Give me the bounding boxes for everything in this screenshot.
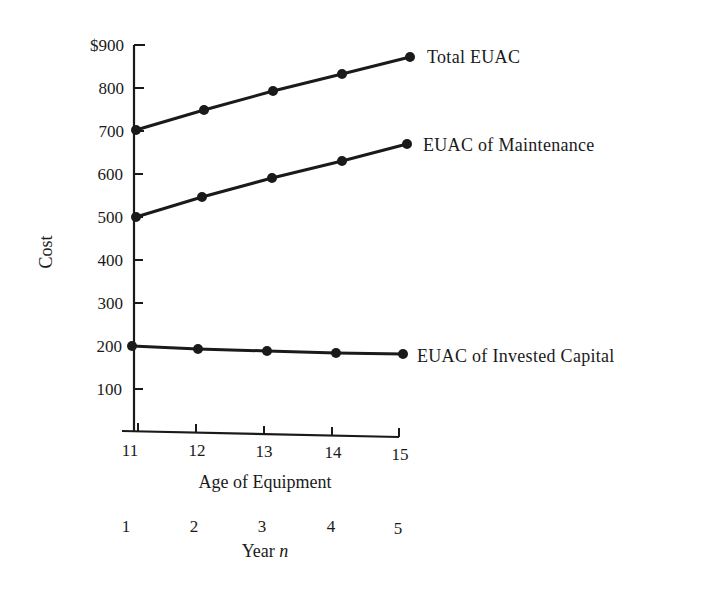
y-tick-label: 800: [99, 79, 125, 98]
y-tick-label: 500: [98, 208, 124, 227]
y-tick-label: 700: [99, 122, 125, 141]
x-tick-label: 15: [392, 445, 409, 464]
x-secondary-tick-label: 4: [327, 517, 336, 536]
x-secondary-axis-title: Year n: [242, 541, 289, 561]
data-point: [193, 344, 203, 354]
x-tick-labels: 11 12 13 14 15: [122, 441, 409, 464]
data-point: [131, 125, 141, 135]
data-point: [331, 348, 341, 358]
series-label-maintenance: EUAC of Maintenance: [423, 135, 595, 155]
y-tick-label: 100: [97, 380, 123, 399]
series-maintenance: EUAC of Maintenance: [131, 135, 595, 222]
x-secondary-title-prefix: Year: [242, 541, 280, 561]
series-total-euac: Total EUAC: [131, 47, 520, 135]
chart: $900 800 700 600 500 400 300 200 100 Cos…: [0, 0, 702, 595]
x-secondary-tick-label: 2: [190, 517, 199, 536]
series-label-total: Total EUAC: [427, 47, 520, 67]
x-secondary-tick-labels: 1 2 3 4 5: [122, 517, 403, 538]
data-point: [267, 173, 277, 183]
x-secondary-title-var: n: [279, 541, 288, 561]
data-point: [337, 69, 347, 79]
data-point: [405, 52, 415, 62]
x-secondary-tick-label: 1: [122, 517, 131, 536]
x-tick-label: 13: [256, 442, 273, 461]
series-label-capital: EUAC of Invested Capital: [417, 346, 615, 366]
data-point: [199, 105, 209, 115]
x-secondary-tick-label: 5: [394, 519, 403, 538]
data-point: [398, 349, 408, 359]
series-invested-capital: EUAC of Invested Capital: [127, 341, 615, 366]
data-point: [337, 156, 347, 166]
data-point: [131, 212, 141, 222]
y-tick-label: 400: [98, 251, 124, 270]
data-point: [127, 341, 137, 351]
data-point: [268, 86, 278, 96]
x-secondary-tick-label: 3: [258, 517, 267, 536]
x-axis-title: Age of Equipment: [199, 472, 332, 492]
y-tick-label: 300: [98, 294, 124, 313]
y-tick-label: 600: [98, 165, 124, 184]
y-tick-label: 200: [97, 337, 123, 356]
y-tick-label: $900: [90, 36, 124, 55]
x-tick-label: 12: [189, 441, 206, 460]
x-tick-label: 11: [122, 441, 138, 460]
data-point: [402, 139, 412, 149]
x-tick-label: 14: [325, 443, 343, 462]
x-axis: [122, 431, 399, 437]
y-tick-labels: $900 800 700 600 500 400 300 200 100: [90, 36, 124, 399]
data-point: [197, 192, 207, 202]
y-axis-title: Cost: [36, 235, 56, 268]
data-point: [262, 346, 272, 356]
